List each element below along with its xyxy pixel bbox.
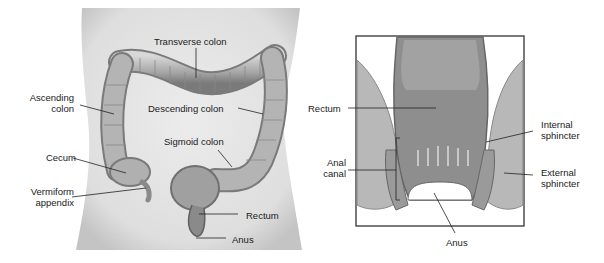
label-external-sphincter-line1: External: [541, 167, 576, 178]
label-cecum: Cecum: [46, 152, 76, 163]
label-rectum-left: Rectum: [246, 210, 279, 221]
label-anus-left: Anus: [232, 234, 254, 245]
rectum-cross-section: Rectum Anal canal Internal sphincter Ext…: [300, 0, 604, 263]
label-anus-right: Anus: [446, 237, 468, 248]
label-transverse-colon: Transverse colon: [154, 36, 227, 47]
label-vermiform-appendix-line1: Vermiform: [31, 186, 74, 197]
large-intestine-illustration: Transverse colon Ascending colon Descend…: [0, 0, 310, 263]
label-vermiform-appendix-line2: appendix: [35, 197, 74, 208]
label-internal-sphincter-line1: Internal: [541, 119, 573, 130]
label-internal-sphincter-line2: sphincter: [541, 130, 580, 141]
label-descending-colon: Descending colon: [148, 103, 224, 114]
label-external-sphincter-line2: sphincter: [541, 178, 580, 189]
label-rectum-right: Rectum: [308, 103, 341, 114]
label-ascending-colon-line2: colon: [51, 103, 74, 114]
label-ascending-colon-line1: Ascending: [30, 92, 74, 103]
label-sigmoid-colon: Sigmoid colon: [164, 136, 224, 147]
label-anal-canal-line2: canal: [323, 168, 346, 179]
label-anal-canal-line1: Anal: [327, 157, 346, 168]
